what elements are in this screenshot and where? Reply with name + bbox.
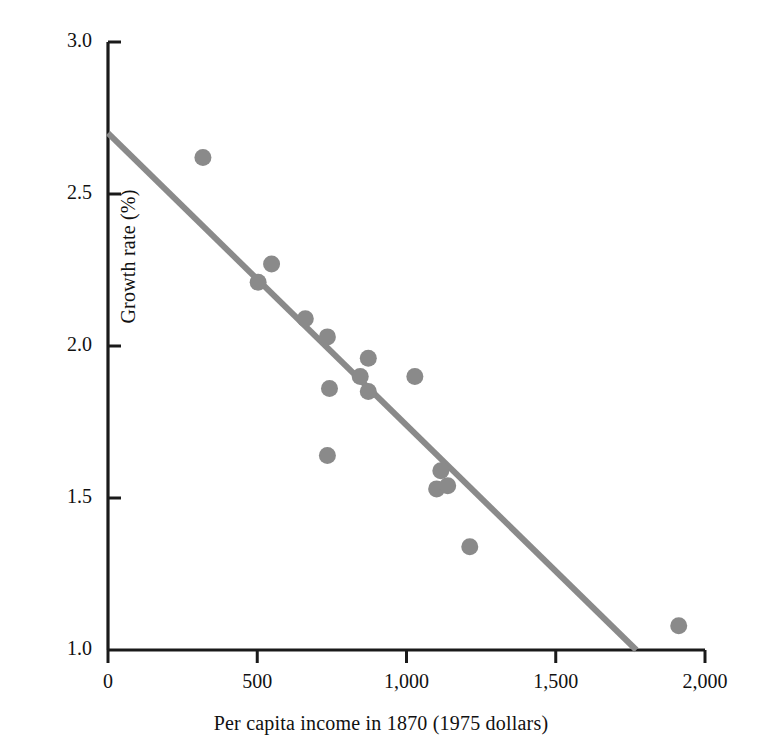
plot-area: [0, 0, 762, 753]
y-tick-label: 1.5: [36, 485, 92, 508]
data-point: [432, 462, 449, 479]
data-point: [360, 383, 377, 400]
data-point: [360, 350, 377, 367]
x-tick-label: 1,500: [511, 670, 601, 693]
data-point: [297, 310, 314, 327]
data-point: [194, 149, 211, 166]
x-tick-label: 500: [212, 670, 302, 693]
data-point: [439, 477, 456, 494]
data-points: [194, 149, 687, 634]
y-tick-label: 3.0: [36, 29, 92, 52]
data-point: [461, 538, 478, 555]
data-point: [352, 368, 369, 385]
data-point: [321, 380, 338, 397]
x-axis-title: Per capita income in 1870 (1975 dollars): [0, 712, 762, 735]
y-tick-label: 1.0: [36, 637, 92, 660]
data-point: [319, 328, 336, 345]
y-axis-title: Growth rate (%): [117, 137, 140, 377]
data-point: [670, 617, 687, 634]
y-tick-label: 2.5: [36, 181, 92, 204]
x-tick-label: 1,000: [362, 670, 452, 693]
data-point: [319, 447, 336, 464]
data-point: [263, 255, 280, 272]
x-tick-label: 2,000: [660, 670, 750, 693]
data-point: [250, 274, 267, 291]
data-point: [406, 368, 423, 385]
axes: [108, 42, 705, 663]
scatter-chart-figure: Growth rate (%) Per capita income in 187…: [0, 0, 762, 753]
x-tick-label: 0: [63, 670, 153, 693]
y-tick-label: 2.0: [36, 333, 92, 356]
